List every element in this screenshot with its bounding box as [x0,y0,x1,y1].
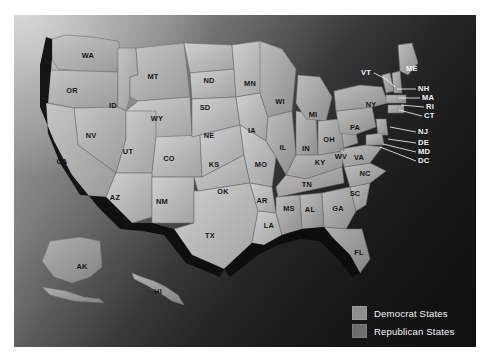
state-shape-NH-shape[interactable] [392,71,402,93]
state-shape-CO[interactable] [152,135,202,177]
state-shape-NJ-shape[interactable] [376,119,388,135]
state-label-NC: NC [359,169,371,178]
state-label-OH: OH [323,135,335,144]
state-shape-OR[interactable] [46,70,118,108]
legend-item-democrat[interactable]: Democrat States [352,305,472,321]
state-label-GA: GA [332,204,344,213]
callout-label-VT: VT [361,68,371,77]
state-label-AR: AR [256,196,268,205]
callout-label-MD: MD [418,147,431,156]
callout-label-RI: RI [426,102,434,111]
state-label-WI: WI [275,97,284,106]
state-label-TX: TX [205,231,215,240]
state-label-VA: VA [354,153,365,162]
callout-line-DE [388,139,416,143]
state-shape-MA-shape[interactable] [386,95,406,103]
democrat-swatch [352,306,367,320]
state-label-IN: IN [302,144,310,153]
callout-line-MD [383,144,416,152]
state-label-SD: SD [200,103,211,112]
state-label-OK: OK [217,187,229,196]
callout-label-MA: MA [422,93,435,102]
state-label-NE: NE [204,131,215,140]
state-shape-ND[interactable] [184,43,234,73]
state-label-TN: TN [302,180,312,189]
state-label-MI: MI [309,110,318,119]
republican-swatch [352,324,367,338]
state-label-KY: KY [315,158,326,167]
state-shape-AK[interactable] [42,237,102,283]
state-label-UT: UT [123,147,134,156]
state-label-AK: AK [76,262,88,271]
state-label-CO: CO [163,154,175,163]
state-label-NY: NY [366,100,377,109]
callout-line-DC [380,147,416,161]
state-label-OR: OR [66,86,78,95]
state-shape-NY[interactable] [334,85,388,111]
state-label-WA: WA [82,51,95,60]
state-label-MT: MT [147,72,158,81]
state-label-PA: PA [350,123,361,132]
callout-label-DC: DC [418,156,430,165]
state-label-MN: MN [244,79,256,88]
state-shape-CT-RI-shape[interactable] [388,105,404,113]
callout-label-NH: NH [418,84,429,93]
callout-line-RI [401,105,424,107]
state-label-AL: AL [305,205,316,214]
state-label-MS: MS [283,204,295,213]
us-map-figure: WAORIDMTWYNVCAUTCOAZNMNDSDNEKSOKTXMNIAMO… [14,15,476,347]
state-label-IL: IL [280,143,287,152]
callout-label-NJ: NJ [418,127,428,136]
state-shape-AK-aleutians[interactable] [42,287,104,303]
callout-label-CT: CT [424,111,435,120]
state-label-IA: IA [248,126,256,135]
state-label-NV: NV [86,131,97,140]
state-label-FL: FL [354,248,364,257]
state-label-KS: KS [209,160,220,169]
state-label-WV: WV [335,152,347,161]
legend-item-republican[interactable]: Republican States [352,323,472,339]
legend-label-democrat: Democrat States [374,308,448,319]
state-label-ID: ID [109,101,117,110]
state-label-HI: HI [154,287,162,296]
page-canvas: WAORIDMTWYNVCAUTCOAZNMNDSDNEKSOKTXMNIAMO… [0,0,492,362]
state-label-SC: SC [350,189,361,198]
state-label-LA: LA [264,221,275,230]
legend-label-republican: Republican States [374,326,454,337]
state-label-WY: WY [151,114,163,123]
state-label-ND: ND [203,76,215,85]
callout-line-NJ [390,127,416,132]
state-shape-MT[interactable] [130,43,190,101]
state-label-CA: CA [56,157,68,166]
state-shape-DE-MD-shape[interactable] [366,133,384,145]
state-label-MO: MO [255,160,267,169]
us-map-svg: WAORIDMTWYNVCAUTCOAZNMNDSDNEKSOKTXMNIAMO… [14,15,476,347]
callout-label-DE: DE [418,138,429,147]
callout-label-ME: ME [406,64,418,73]
state-label-NM: NM [156,197,168,206]
state-label-AZ: AZ [110,193,121,202]
map-legend: Democrat States Republican States [352,305,472,341]
